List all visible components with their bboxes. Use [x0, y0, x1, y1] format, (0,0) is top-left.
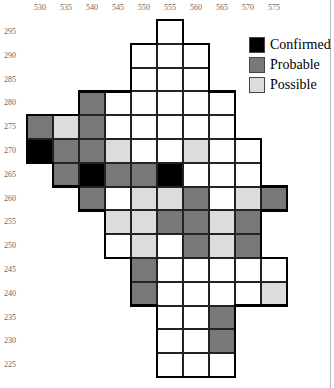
grid-cell-probable [209, 329, 235, 353]
region-outline [208, 376, 236, 378]
grid-cell-none [183, 329, 209, 353]
column-label: 555 [157, 3, 183, 12]
region-outline [156, 19, 184, 21]
region-outline [78, 90, 106, 92]
grid-cell-none [183, 68, 209, 92]
legend-swatch-possible [249, 77, 265, 93]
region-outline [234, 328, 236, 354]
legend-label-possible: Possible [270, 77, 317, 93]
grid-cell-possible [157, 187, 183, 211]
grid-cell-possible [131, 210, 157, 234]
legend-swatch-probable [249, 57, 265, 73]
grid-cell-probable [235, 210, 261, 234]
row-label: 235 [4, 313, 16, 322]
region-outline [52, 162, 54, 188]
column-label: 570 [235, 3, 261, 12]
grid-cell-probable [183, 210, 209, 234]
region-outline [234, 304, 262, 306]
region-outline [182, 19, 184, 45]
region-outline [104, 257, 132, 259]
row-label: 270 [4, 146, 16, 155]
grid-cell-none [105, 234, 131, 258]
grid-cell-probable [131, 163, 157, 187]
region-outline [260, 233, 262, 259]
row-label: 240 [4, 289, 16, 298]
grid-cell-none [209, 163, 235, 187]
region-outline [130, 43, 132, 69]
row-label: 255 [4, 217, 16, 226]
grid-cell-possible [209, 234, 235, 258]
grid-cell-none [157, 115, 183, 139]
region-outline [156, 304, 158, 330]
grid-cell-possible [261, 282, 287, 306]
column-label: 535 [53, 3, 79, 12]
region-outline [130, 43, 158, 45]
grid-cell-none [261, 258, 287, 282]
region-outline [286, 257, 288, 283]
region-outline [208, 66, 210, 92]
region-outline [52, 114, 80, 116]
region-outline [156, 328, 158, 354]
row-label: 280 [4, 98, 16, 107]
row-label: 275 [4, 122, 16, 131]
legend-swatch-confirmed [249, 37, 265, 53]
region-outline [208, 90, 236, 92]
grid-cell-none [131, 91, 157, 115]
region-outline [26, 138, 28, 164]
region-outline [156, 352, 158, 378]
grid-cell-possible [183, 139, 209, 163]
grid-cell-none [209, 187, 235, 211]
region-outline [234, 114, 236, 140]
row-label: 230 [4, 336, 16, 345]
grid-cell-probable [131, 282, 157, 306]
region-outline [260, 162, 262, 188]
row-label: 295 [4, 27, 16, 36]
grid-cell-none [105, 187, 131, 211]
grid-cell-possible [105, 210, 131, 234]
column-label: 560 [183, 3, 209, 12]
grid-cell-none [235, 139, 261, 163]
grid-cell-none [209, 115, 235, 139]
grid-cell-probable [183, 187, 209, 211]
grid-cell-none [183, 115, 209, 139]
region-outline [234, 138, 262, 140]
legend-label-probable: Probable [270, 57, 320, 73]
grid-cell-none [157, 139, 183, 163]
grid-cell-none [105, 115, 131, 139]
region-outline [104, 209, 106, 235]
grid-cell-none [131, 68, 157, 92]
region-outline [26, 114, 54, 116]
grid-cell-probable [209, 306, 235, 330]
row-label: 245 [4, 265, 16, 274]
grid-cell-none [183, 306, 209, 330]
grid-cell-possible [131, 234, 157, 258]
grid-cell-confirmed [79, 163, 105, 187]
grid-cell-none [157, 68, 183, 92]
page-edge-line [330, 0, 331, 388]
region-outline [286, 185, 288, 211]
grid-cell-probable [27, 115, 53, 139]
grid-cell-none [235, 163, 261, 187]
region-outline [234, 90, 236, 116]
region-outline [156, 376, 184, 378]
grid-cell-possible [235, 187, 261, 211]
column-label: 575 [261, 3, 287, 12]
region-outline [78, 90, 80, 116]
grid-cell-probable [53, 139, 79, 163]
region-outline [156, 19, 158, 45]
grid-cell-none [183, 282, 209, 306]
region-outline [78, 185, 80, 211]
grid-cell-none [235, 258, 261, 282]
grid-cell-probable [79, 187, 105, 211]
grid-cell-confirmed [27, 139, 53, 163]
region-outline [260, 138, 262, 164]
row-label: 250 [4, 241, 16, 250]
region-outline [130, 66, 132, 92]
grid-cell-none [209, 282, 235, 306]
grid-cell-none [209, 91, 235, 115]
region-outline [130, 281, 132, 307]
grid-cell-probable [79, 91, 105, 115]
region-outline [104, 90, 132, 92]
grid-cell-none [209, 353, 235, 377]
column-label: 545 [105, 3, 131, 12]
